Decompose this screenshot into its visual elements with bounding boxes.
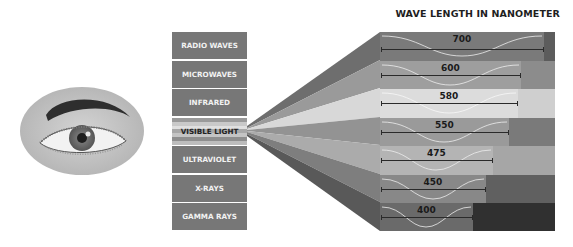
label-ultraviolet: ULTRAVIOLET xyxy=(172,146,247,173)
measure-line xyxy=(381,132,509,133)
bar-end-block xyxy=(518,89,555,118)
bar-end-block xyxy=(509,118,555,147)
measure-line xyxy=(381,189,486,190)
measure-line xyxy=(381,103,518,104)
wavelength-row-450: 450 xyxy=(380,175,555,204)
wavelength-value: 550 xyxy=(380,120,509,130)
wavelength-row-400: 400 xyxy=(380,203,555,231)
label-infrared: INFRARED xyxy=(172,89,247,116)
wavelength-row-700: 700 xyxy=(380,32,555,61)
wavelength-value: 580 xyxy=(380,91,518,101)
wavelength-row-550: 550 xyxy=(380,118,555,147)
bar-end-block xyxy=(544,32,555,61)
measure-line xyxy=(381,217,473,218)
label-radio-waves: RADIO WAVES xyxy=(172,32,247,59)
wavelength-row-475: 475 xyxy=(380,146,555,175)
wavelength-value: 450 xyxy=(380,177,486,187)
measure-line xyxy=(381,160,493,161)
wavelength-value: 700 xyxy=(380,34,544,44)
label-gamma-rays: GAMMA RAYS xyxy=(172,203,247,230)
bar-end-block xyxy=(521,61,555,90)
wavelength-value: 475 xyxy=(380,148,493,158)
wavelength-value: 400 xyxy=(380,205,473,215)
label-microwaves: MICROWAVES xyxy=(172,61,247,88)
wavelength-value: 600 xyxy=(380,63,521,73)
bar-end-block xyxy=(493,146,555,175)
label-visible-light: VISIBLE LIGHT xyxy=(172,118,247,145)
measure-line xyxy=(381,75,521,76)
measure-line xyxy=(381,49,544,50)
wavelength-row-600: 600 xyxy=(380,61,555,90)
bar-end-block xyxy=(486,175,555,204)
wavelength-bars: 700 600 580 550 475 450 xyxy=(380,32,555,231)
bar-end-block xyxy=(473,203,555,231)
label-x-rays: X-RAYS xyxy=(172,175,247,202)
wavelength-row-580: 580 xyxy=(380,89,555,118)
